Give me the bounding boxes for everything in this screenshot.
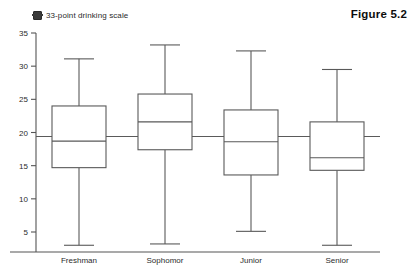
category-label: Sophomor <box>147 256 184 265</box>
box-plot-chart: 5101520253035 FreshmanSophomorJuniorSeni… <box>0 22 418 276</box>
category-label: Senior <box>325 256 348 265</box>
y-tick-label: 30 <box>19 62 28 71</box>
box-plot-svg: 5101520253035 FreshmanSophomorJuniorSeni… <box>0 22 418 276</box>
y-tick-label: 15 <box>19 162 28 171</box>
box-series <box>52 45 364 245</box>
category-label: Junior <box>240 256 262 265</box>
figure-title: Figure 5.2 <box>351 8 407 20</box>
box-plot-item <box>224 51 278 231</box>
y-tick-label: 20 <box>19 129 28 138</box>
chart-legend: 33-point drinking scale <box>33 11 128 20</box>
box-plot-item <box>310 69 364 245</box>
box-plot-item <box>138 45 192 244</box>
y-tick-label: 35 <box>19 29 28 38</box>
category-label: Freshman <box>61 256 97 265</box>
y-tick-label: 25 <box>19 95 28 104</box>
y-axis: 5101520253035 <box>19 29 36 252</box>
square-marker-icon <box>33 11 42 20</box>
legend-label: 33-point drinking scale <box>46 11 128 20</box>
figure-page: 33-point drinking scale Figure 5.2 51015… <box>0 0 418 276</box>
category-labels: FreshmanSophomorJuniorSenior <box>61 256 349 265</box>
y-tick-label: 10 <box>19 195 28 204</box>
y-tick-label: 5 <box>24 228 29 237</box>
box-plot-item <box>52 59 106 245</box>
